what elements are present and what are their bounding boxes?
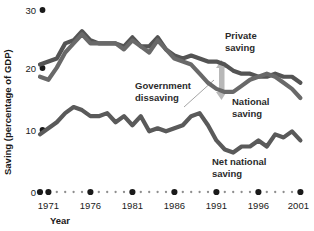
x-axis-dot-1996 [255, 189, 261, 195]
x-axis-dot-1991 [213, 189, 219, 195]
annotation-net-national-saving-line1: Net national [212, 156, 266, 167]
y-axis-dot-30 [40, 7, 46, 13]
annotation-government-dissaving-line1: Government [135, 80, 192, 91]
x-tick-label-2001: 2001 [288, 200, 309, 211]
y-tick-label-10: 10 [25, 125, 36, 136]
x-axis-dot-1986 [171, 189, 177, 195]
x-axis-dot-1981 [129, 189, 135, 195]
y-tick-label-30: 30 [25, 5, 36, 16]
x-tick-label-1981: 1981 [122, 200, 143, 211]
x-axis-title: Year [50, 215, 70, 226]
y-tick-label-20: 20 [25, 63, 36, 74]
x-tick-label-1991: 1991 [206, 200, 227, 211]
x-axis-dot-1970 [37, 189, 43, 195]
annotation-national-saving-line2: saving [232, 108, 262, 119]
chart-container: Saving (percentage of GDP) 30 20 10 0 [0, 0, 314, 231]
x-tick-label-1971: 1971 [38, 200, 59, 211]
x-tick-label-1976: 1976 [80, 200, 101, 211]
x-tick-label-1996: 1996 [248, 200, 269, 211]
annotation-national-saving-line1: National [232, 96, 269, 107]
annotation-private-saving-line1: Private [225, 30, 257, 41]
annotation-net-national-saving: Net national saving [212, 156, 266, 179]
x-axis-dot-1976 [87, 189, 93, 195]
y-axis-title: Saving (percentage of GDP) [2, 49, 13, 175]
annotation-government-dissaving-line2: dissaving [135, 92, 179, 103]
saving-line-chart: Saving (percentage of GDP) 30 20 10 0 [0, 0, 314, 231]
annotation-government-dissaving: Government dissaving [135, 80, 192, 103]
x-axis-dot-2001 [297, 189, 303, 195]
annotation-net-national-saving-line2: saving [212, 168, 242, 179]
annotation-private-saving: Private saving [225, 30, 257, 53]
annotation-private-saving-line2: saving [225, 42, 255, 53]
annotation-national-saving: National saving [232, 96, 269, 119]
x-axis-dot-1971 [45, 189, 51, 195]
x-tick-label-1986: 1986 [164, 200, 185, 211]
y-tick-label-0: 0 [31, 187, 36, 198]
